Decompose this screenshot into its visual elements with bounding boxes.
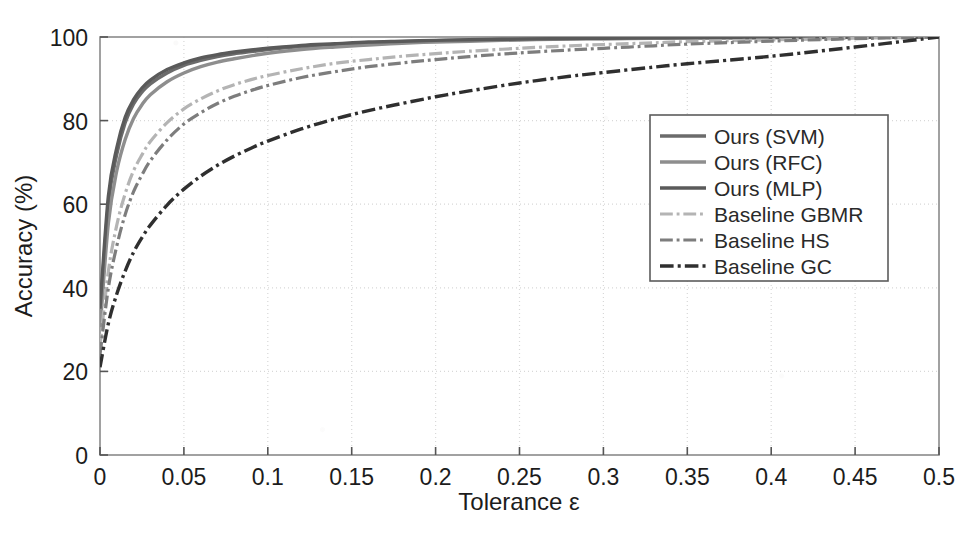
x-tick-label: 0.35 [665,464,710,490]
chart-figure: 00.050.10.150.20.250.30.350.40.450.5 020… [0,0,977,537]
x-tick-label: 0.05 [162,464,207,490]
y-tick-label: 0 [75,443,88,469]
y-tick-label: 100 [50,25,88,51]
y-tick-label: 80 [62,109,88,135]
x-tick-label: 0.4 [755,464,787,490]
y-tick-label: 60 [62,192,88,218]
y-tick-label: 20 [62,359,88,385]
accuracy-vs-tolerance-chart: 00.050.10.150.20.250.30.350.40.450.5 020… [0,0,977,537]
legend-label: Baseline HS [714,229,830,252]
x-tick-label: 0.2 [420,464,452,490]
x-tick-label: 0 [94,464,107,490]
legend-label: Baseline GC [714,255,832,278]
x-tick-label: 0.25 [497,464,542,490]
legend-label: Ours (RFC) [714,151,823,174]
x-tick-label: 0.15 [329,464,374,490]
x-tick-label: 0.1 [252,464,284,490]
legend-label: Ours (SVM) [714,125,825,148]
y-axis-title: Accuracy (%) [10,175,37,318]
x-axis-title: Tolerance ε [458,488,580,515]
y-tick-label: 40 [62,276,88,302]
x-tick-label: 0.5 [923,464,955,490]
legend-label: Ours (MLP) [714,177,823,200]
x-tick-label: 0.45 [833,464,878,490]
chart-legend: Ours (SVM)Ours (RFC)Ours (MLP)Baseline G… [650,115,888,281]
x-tick-label: 0.3 [587,464,619,490]
legend-label: Baseline GBMR [714,203,863,226]
